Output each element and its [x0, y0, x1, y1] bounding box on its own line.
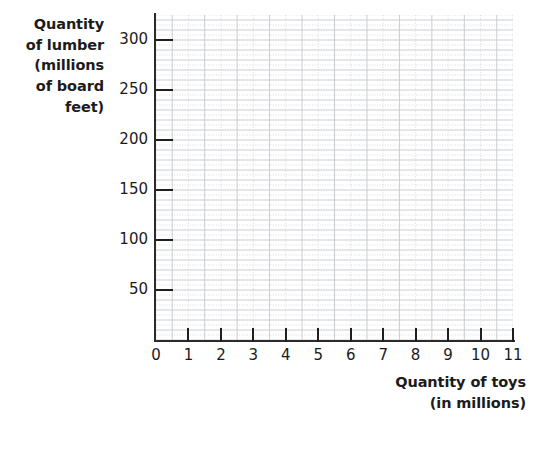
x-axis-title: Quantity of toys (in millions): [300, 372, 526, 414]
y-axis-tick-mark: [156, 139, 173, 141]
x-axis-tick-label: 11: [498, 348, 528, 363]
x-axis-line: [154, 340, 515, 342]
x-axis-tick-label: 5: [303, 348, 333, 363]
x-axis-tick-mark: [447, 328, 449, 342]
y-axis-title-line-2: of lumber: [0, 35, 104, 56]
x-axis-tick-label: 4: [271, 348, 301, 363]
y-axis-tick-label: 250: [102, 82, 148, 97]
y-axis-tick-label: 300: [102, 32, 148, 47]
grid-lines: [156, 15, 513, 340]
y-axis-title-line-1: Quantity: [0, 14, 104, 35]
x-axis-tick-mark: [350, 328, 352, 342]
y-axis-title: Quantity of lumber (millions of board fe…: [0, 14, 104, 118]
x-axis-tick-mark: [285, 328, 287, 342]
x-axis-tick-label: 6: [336, 348, 366, 363]
y-axis-tick-mark: [156, 39, 173, 41]
x-axis-tick-mark: [480, 328, 482, 342]
y-axis-tick-mark: [156, 189, 173, 191]
chart-figure: Quantity of lumber (millions of board fe…: [0, 0, 542, 454]
x-axis-tick-mark: [187, 328, 189, 342]
x-axis-tick-mark: [317, 328, 319, 342]
x-axis-tick-label: 3: [238, 348, 268, 363]
y-axis-tick-label: 200: [102, 132, 148, 147]
y-axis-title-line-5: feet): [0, 97, 104, 118]
y-axis-tick-label: 150: [102, 182, 148, 197]
x-axis-tick-label: 9: [433, 348, 463, 363]
y-axis-tick-label: 100: [102, 232, 148, 247]
x-axis-tick-label: 7: [368, 348, 398, 363]
x-axis-tick-label: 10: [466, 348, 496, 363]
y-axis-line: [154, 13, 156, 342]
y-axis-tick-mark: [156, 89, 173, 91]
x-axis-tick-mark: [220, 328, 222, 342]
x-axis-tick-mark: [382, 328, 384, 342]
plot-area: [156, 15, 513, 340]
x-axis-title-line-2: (in millions): [300, 393, 526, 414]
x-axis-tick-mark: [415, 328, 417, 342]
x-axis-tick-mark: [252, 328, 254, 342]
y-axis-title-line-4: of board: [0, 76, 104, 97]
y-axis-tick-label: 50: [102, 282, 148, 297]
x-axis-tick-label: 1: [173, 348, 203, 363]
y-axis-tick-mark: [156, 239, 173, 241]
x-axis-title-line-1: Quantity of toys: [300, 372, 526, 393]
x-axis-tick-label: 2: [206, 348, 236, 363]
x-axis-tick-label: 8: [401, 348, 431, 363]
y-axis-title-line-3: (millions: [0, 55, 104, 76]
x-axis-tick-label: 0: [141, 348, 171, 363]
y-axis-tick-labels: 50100150200250300: [98, 0, 148, 360]
x-axis-tick-mark: [512, 328, 514, 342]
y-axis-tick-mark: [156, 289, 173, 291]
